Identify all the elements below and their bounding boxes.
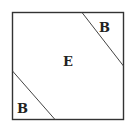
region-label-center: E — [63, 54, 73, 69]
region-label-top-right: B — [99, 20, 110, 35]
venn-square-diagram: B E B — [0, 0, 133, 128]
region-label-bottom-left: B — [17, 101, 28, 116]
